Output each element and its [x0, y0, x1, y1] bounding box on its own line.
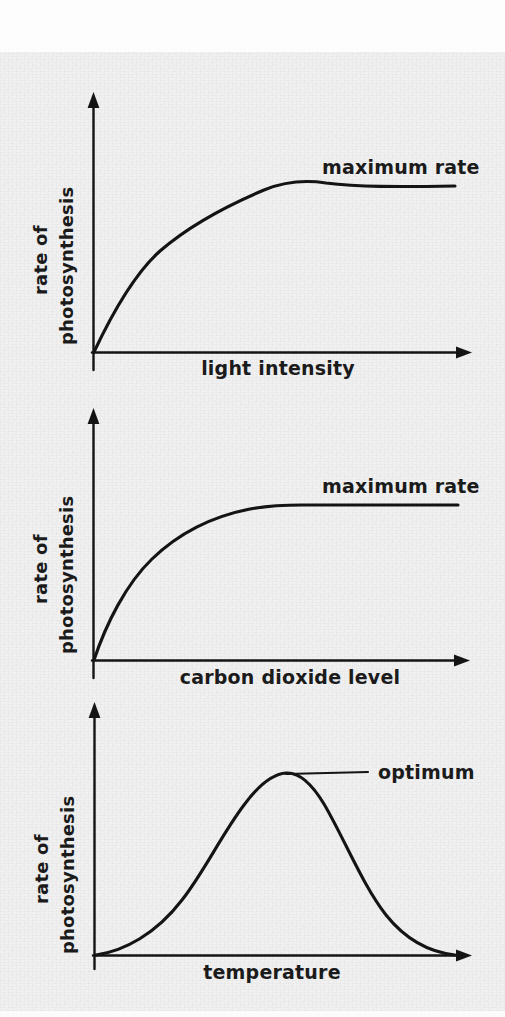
optimum-leader-line: [286, 772, 368, 774]
y-axis-label: rate of photosynthesis: [30, 496, 77, 654]
photosynthesis-rate-curve: [94, 181, 455, 352]
y-axis: [89, 702, 101, 969]
x-axis: [92, 655, 470, 667]
y-axis-label: rate of photosynthesis: [31, 796, 78, 954]
y-axis-label-line2: photosynthesis: [56, 496, 77, 654]
photosynthesis-graphs-page: maximum rate rate of photosynthesis ligh…: [0, 0, 505, 1017]
maximum-rate-callout: maximum rate: [322, 475, 480, 497]
page-bottom-margin: [0, 1011, 505, 1017]
y-axis-label-line1: rate of: [30, 225, 51, 295]
y-axis-label: rate of photosynthesis: [30, 187, 77, 345]
x-axis: [93, 950, 472, 962]
photosynthesis-rate-curve: [94, 505, 458, 660]
carbon-dioxide-chart: maximum rate rate of photosynthesis carb…: [0, 392, 505, 692]
y-axis-label-line2: photosynthesis: [56, 187, 77, 345]
photosynthesis-rate-curve: [96, 773, 455, 955]
y-axis-label-line2: photosynthesis: [57, 796, 78, 954]
y-axis: [88, 408, 100, 678]
temperature-chart: optimum rate of photosynthesis temperatu…: [0, 694, 505, 1004]
x-axis-label: carbon dioxide level: [180, 666, 400, 688]
x-axis-label: light intensity: [201, 357, 355, 379]
y-axis: [88, 92, 100, 370]
light-intensity-chart: maximum rate rate of photosynthesis ligh…: [0, 80, 505, 380]
maximum-rate-callout: maximum rate: [322, 156, 480, 178]
x-axis-label: temperature: [203, 961, 341, 983]
optimum-callout: optimum: [378, 761, 475, 783]
y-axis-label-line1: rate of: [30, 534, 51, 604]
page-top-margin: [0, 0, 505, 52]
y-axis-label-line1: rate of: [31, 834, 52, 904]
